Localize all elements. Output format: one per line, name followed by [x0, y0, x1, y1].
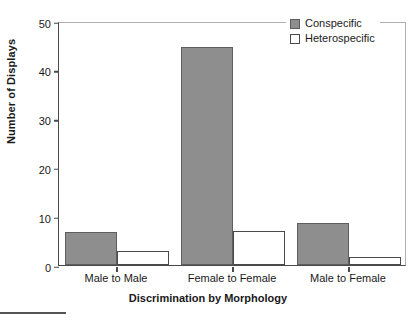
y-axis-tick-label: 20 [39, 163, 51, 175]
y-axis-tick-mark [54, 22, 59, 24]
x-axis-category-label: Male to Female [290, 272, 406, 284]
legend-swatch-heterospecific [290, 34, 300, 44]
y-axis-tick-label: 30 [39, 115, 51, 127]
y-axis-tick-mark [54, 120, 59, 122]
y-axis-tick-mark [54, 217, 59, 219]
legend-swatch-conspecific [290, 19, 300, 29]
bar-conspecific-female-to-female [181, 47, 233, 265]
y-axis-tick-mark [54, 169, 59, 171]
bar-heterospecific-female-to-female [233, 231, 285, 265]
bar-conspecific-male-to-male [65, 232, 117, 265]
x-axis-category-label: Male to Male [58, 272, 174, 284]
y-axis-tick-label: 10 [39, 212, 51, 224]
bar-heterospecific-male-to-male [117, 251, 169, 265]
y-axis-tick-label: 40 [39, 66, 51, 78]
legend-label-heterospecific: Heterospecific [305, 32, 375, 45]
plot-area: 01020304050 [58, 22, 406, 266]
legend-label-conspecific: Conspecific [305, 17, 362, 30]
y-axis-tick-mark [54, 266, 59, 268]
y-axis-tick-mark [54, 71, 59, 73]
legend-item-conspecific: Conspecific [290, 17, 375, 30]
y-axis-tick-label: 0 [45, 261, 51, 273]
y-axis-tick-label: 50 [39, 17, 51, 29]
page-footer-rule [0, 312, 66, 314]
x-axis-title: Discrimination by Morphology [0, 292, 416, 304]
x-axis-category-label: Female to Female [174, 272, 290, 284]
bar-conspecific-male-to-female [297, 223, 349, 265]
legend: Conspecific Heterospecific [286, 14, 380, 48]
bar-heterospecific-male-to-female [349, 257, 401, 265]
legend-item-heterospecific: Heterospecific [290, 32, 375, 45]
bar-chart-figure: Number of Displays 01020304050 Discrimin… [0, 0, 416, 327]
y-axis-title: Number of Displays [5, 39, 17, 144]
